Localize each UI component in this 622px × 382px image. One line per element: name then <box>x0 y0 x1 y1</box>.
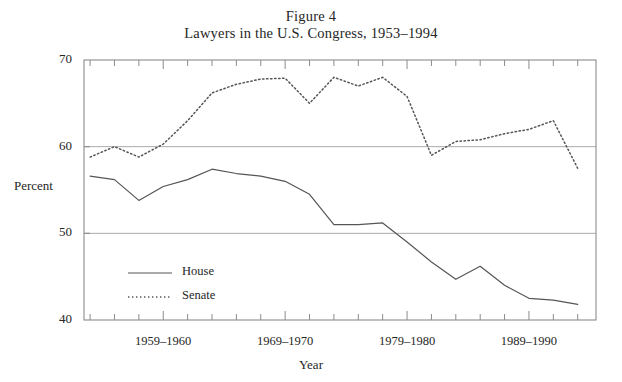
series-line-senate <box>90 77 578 168</box>
figure-container: Figure 4 Lawyers in the U.S. Congress, 1… <box>0 0 622 382</box>
series-line-house <box>90 169 578 304</box>
chart-plot-area <box>0 0 622 382</box>
plot-frame <box>84 60 596 320</box>
